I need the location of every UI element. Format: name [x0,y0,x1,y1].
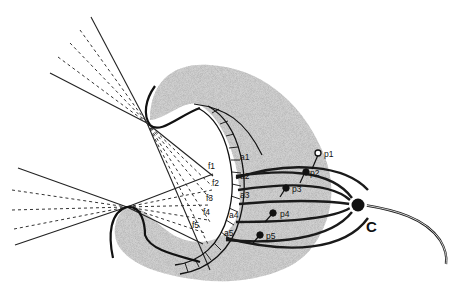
axon-label-a3: a3 [240,190,250,200]
axon-label-a5: a5 [224,228,234,238]
focus-label-f3: f3 [206,193,213,203]
focus-label-f5: f5 [192,220,199,230]
axon-label-a4: a4 [229,210,239,220]
probe-label-p3: p3 [292,184,302,194]
probe-label-p4: p4 [280,209,290,219]
axon-label-a2: a2 [240,171,250,181]
focus-label-f2: f2 [212,178,219,188]
probe-label-p2: p2 [310,168,320,178]
probe-label-p1: p1 [324,149,334,159]
focus-label-f1: f1 [208,161,215,171]
focus-label-f4: f4 [203,207,210,217]
probe-label-p5: p5 [266,231,276,241]
diagram-canvas: C f1 f2 f3 f4 f5 a1 a2 a3 a4 a5 p1 p2 p3… [0,0,465,294]
axon-label-a1: a1 [240,152,250,162]
center-label: C [366,218,377,235]
central-cell [349,196,367,214]
